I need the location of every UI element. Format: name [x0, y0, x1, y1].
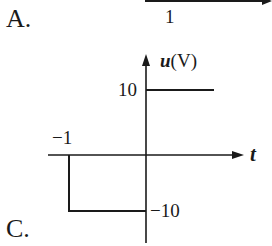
- y-tick-10: 10: [118, 79, 137, 101]
- option-c-label: C.: [6, 214, 30, 244]
- t-axis-arrow-icon: [232, 151, 244, 159]
- waveform-negative: [69, 155, 146, 211]
- waveform-chart: [0, 0, 272, 246]
- y-tick-neg10: −10: [150, 200, 180, 222]
- y-axis-arrow-icon: [142, 54, 150, 66]
- y-axis-label: u(V): [160, 50, 197, 72]
- x-axis-label: t: [250, 142, 256, 167]
- x-tick-neg1: −1: [52, 127, 72, 149]
